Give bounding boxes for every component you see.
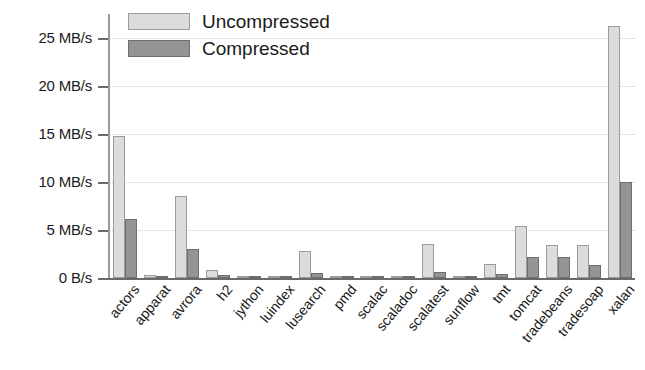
x-axis-line — [108, 278, 635, 280]
bar-jython-compressed — [249, 276, 261, 278]
bar-h2-compressed — [218, 275, 230, 278]
bar-tmt-compressed — [496, 274, 508, 278]
bar-tradesoap-compressed — [589, 265, 601, 278]
bar-xalan-compressed — [620, 182, 632, 278]
bar-scaladoc-compressed — [403, 276, 415, 278]
y-tick-label: 0 B/s — [59, 270, 92, 285]
y-tick-mark — [98, 86, 108, 88]
legend-swatch-compressed — [128, 40, 190, 57]
bar-actors-uncompressed — [113, 136, 125, 278]
bar-group — [326, 14, 357, 278]
bar-luindex-uncompressed — [268, 276, 280, 278]
x-tick-label: pmd — [330, 282, 358, 312]
bar-group — [357, 14, 388, 278]
bar-jython-uncompressed — [237, 276, 249, 278]
y-tick-mark — [98, 182, 108, 184]
bar-sunflow-compressed — [465, 276, 477, 278]
x-tick-label: xalan — [604, 282, 636, 317]
bar-group — [573, 14, 604, 278]
bar-sunflow-uncompressed — [453, 276, 465, 278]
legend-item-uncompressed: Uncompressed — [128, 12, 330, 31]
legend-label-compressed: Compressed — [202, 39, 310, 58]
y-tick-label: 20 MB/s — [38, 78, 92, 93]
bar-tmt-uncompressed — [484, 264, 496, 278]
bar-tradebeans-uncompressed — [546, 245, 558, 278]
bar-group — [481, 14, 512, 278]
bar-tradebeans-compressed — [558, 257, 570, 278]
x-axis-labels: actorsapparatavrorah2jythonluindexlusear… — [110, 282, 635, 370]
y-tick-label: 15 MB/s — [38, 126, 92, 141]
bar-tomcat-compressed — [527, 257, 539, 278]
x-tick-label: avrora — [168, 282, 204, 321]
bar-xalan-uncompressed — [608, 26, 620, 278]
chart-legend: Uncompressed Compressed — [128, 12, 330, 58]
y-tick-mark — [98, 230, 108, 232]
bar-scaladoc-uncompressed — [391, 276, 403, 278]
bar-avrora-uncompressed — [175, 196, 187, 278]
bar-tradesoap-uncompressed — [577, 245, 589, 278]
bar-luindex-compressed — [280, 276, 292, 278]
bar-scalac-compressed — [372, 276, 384, 278]
legend-label-uncompressed: Uncompressed — [202, 12, 330, 31]
bar-scalac-uncompressed — [360, 276, 372, 278]
y-tick-label: 25 MB/s — [38, 30, 92, 45]
bar-avrora-compressed — [187, 249, 199, 278]
bar-group — [388, 14, 419, 278]
bar-group — [511, 14, 542, 278]
bar-scalatest-compressed — [434, 272, 446, 278]
y-tick-mark — [98, 134, 108, 136]
bar-h2-uncompressed — [206, 270, 218, 278]
bar-pmd-uncompressed — [330, 276, 342, 278]
bar-group — [604, 14, 635, 278]
y-tick-label: 5 MB/s — [47, 222, 92, 237]
bar-tomcat-uncompressed — [515, 226, 527, 278]
bar-lusearch-uncompressed — [299, 251, 311, 278]
bar-apparat-compressed — [156, 276, 168, 278]
bar-group — [542, 14, 573, 278]
legend-swatch-uncompressed — [128, 13, 190, 30]
x-tick-label: h2 — [214, 282, 235, 303]
bar-pmd-compressed — [342, 276, 354, 278]
bar-actors-compressed — [125, 219, 137, 278]
bar-group — [450, 14, 481, 278]
y-tick-mark — [98, 278, 108, 280]
bar-chart: 25 MB/s20 MB/s15 MB/s10 MB/s5 MB/s0 B/s … — [0, 0, 645, 370]
x-tick-label: tmt — [490, 282, 513, 306]
y-axis-labels: 25 MB/s20 MB/s15 MB/s10 MB/s5 MB/s0 B/s — [0, 0, 92, 370]
y-tick-mark — [98, 38, 108, 40]
bar-lusearch-compressed — [311, 273, 323, 278]
bar-scalatest-uncompressed — [422, 244, 434, 278]
y-tick-label: 10 MB/s — [38, 174, 92, 189]
legend-item-compressed: Compressed — [128, 39, 330, 58]
bar-group — [419, 14, 450, 278]
bar-apparat-uncompressed — [144, 275, 156, 278]
